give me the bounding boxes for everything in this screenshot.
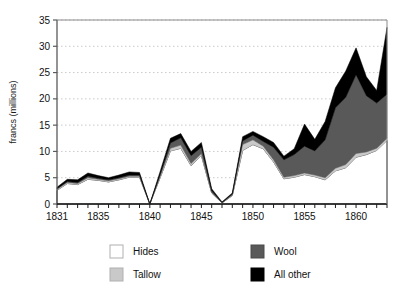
x-tick-label-1835: 1835 [87,211,110,222]
x-tick-label-1840: 1840 [139,211,162,222]
x-tick-label-1860: 1860 [345,211,368,222]
y-tick-label-5: 5 [44,172,50,183]
chart-legend: Hides Tallow Wool All other [110,245,311,281]
legend-label-wool: Wool [274,246,297,257]
stacked-area-chart: 05101520253035 1831183518401845185018551… [0,0,407,294]
legend-swatch-wool [251,245,264,258]
y-tick-label-30: 30 [39,41,51,52]
x-tick-label-1845: 1845 [190,211,213,222]
legend-swatch-hides [110,245,123,258]
x-tick-label-1855: 1855 [293,211,316,222]
legend-swatch-tallow [110,268,123,281]
y-tick-label-10: 10 [39,146,51,157]
y-tick-label-35: 35 [39,15,51,26]
chart-figure: 05101520253035 1831183518401845185018551… [0,0,407,294]
y-tick-label-25: 25 [39,67,51,78]
legend-label-all-other: All other [274,269,311,280]
y-axis-label: francs (millions) [8,80,18,143]
legend-swatch-all-other [251,268,264,281]
x-tick-label-1850: 1850 [242,211,265,222]
legend-label-tallow: Tallow [133,269,162,280]
y-tick-label-20: 20 [39,93,51,104]
y-tick-label-0: 0 [44,199,50,210]
y-tick-label-15: 15 [39,120,51,131]
y-axis-ticks: 05101520253035 [39,15,57,210]
legend-label-hides: Hides [133,246,159,257]
x-tick-label-1831: 1831 [46,211,69,222]
x-axis-ticks: 1831183518401845185018551860 [46,211,368,222]
